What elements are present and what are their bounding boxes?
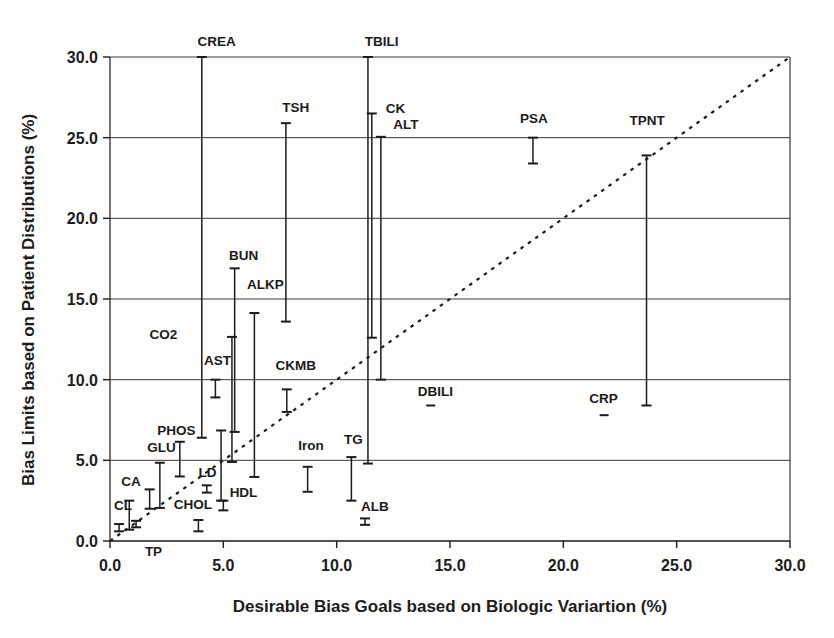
error-bar-CA <box>145 489 155 508</box>
error-bar-ALB <box>360 518 370 524</box>
analyte-label-TPNT: TPNT <box>630 113 666 128</box>
error-bar-LD <box>202 485 212 492</box>
error-bar-BUN <box>230 268 240 432</box>
y-tick-label: 15.0 <box>67 291 98 308</box>
bias-limits-chart: 0.05.010.015.020.025.030.00.05.010.015.0… <box>0 0 834 638</box>
error-bar-TPNT <box>642 155 652 405</box>
analyte-label-PSA: PSA <box>520 111 548 126</box>
analyte-label-AST: AST <box>204 353 232 368</box>
x-tick-label: 15.0 <box>434 557 465 574</box>
analyte-label-TG: TG <box>344 432 363 447</box>
y-axis-title: Bias Limits based on Patient Distributio… <box>19 114 38 486</box>
y-tick-label: 25.0 <box>67 130 98 147</box>
analyte-label-GLU: GLU <box>147 440 176 455</box>
analyte-label-CO2: CO2 <box>150 327 178 342</box>
analyte-label-CA: CA <box>121 474 141 489</box>
y-tick-label: 0.0 <box>76 533 98 550</box>
error-bar-TG <box>346 457 356 501</box>
analyte-label-ALT: ALT <box>393 117 419 132</box>
analyte-label-TP: TP <box>145 544 162 559</box>
analyte-label-HDL: HDL <box>230 485 258 500</box>
error-bar-PHOS <box>175 442 185 477</box>
tick-layer: 0.05.010.015.020.025.030.00.05.010.015.0… <box>67 49 806 574</box>
x-tick-label: 10.0 <box>321 557 352 574</box>
error-bar-CHOL <box>193 520 203 531</box>
error-bar-PSA <box>528 138 538 164</box>
x-tick-label: 30.0 <box>774 557 805 574</box>
analyte-label-BUN: BUN <box>229 248 258 263</box>
analyte-label-layer: CREATBILITSHCKALTPSATPNTBUNALKPASTCO2CKM… <box>114 34 666 560</box>
analyte-label-CK: CK <box>386 101 406 116</box>
y-tick-label: 20.0 <box>67 210 98 227</box>
error-bar-CKMB <box>282 389 292 412</box>
analyte-label-CRP: CRP <box>589 391 618 406</box>
analyte-label-DBILI: DBILI <box>418 384 453 399</box>
x-tick-label: 25.0 <box>661 557 692 574</box>
y-tick-label: 30.0 <box>67 49 98 66</box>
x-tick-label: 20.0 <box>548 557 579 574</box>
x-axis-title: Desirable Bias Goals based on Biologic V… <box>233 597 668 616</box>
error-bar-Iron <box>303 467 313 492</box>
figure-page: 0.05.010.015.020.025.030.00.05.010.015.0… <box>0 0 834 638</box>
analyte-label-LD: LD <box>198 465 216 480</box>
analyte-label-CKMB: CKMB <box>276 358 317 373</box>
error-bar-unlabeled <box>216 430 226 500</box>
y-tick-label: 10.0 <box>67 372 98 389</box>
y-tick-label: 5.0 <box>76 452 98 469</box>
error-bar-HDL <box>218 501 228 511</box>
analyte-label-ALB: ALB <box>361 499 389 514</box>
error-bar-ALKP <box>249 313 259 477</box>
analyte-label-CREA: CREA <box>197 34 236 49</box>
x-tick-label: 5.0 <box>212 557 234 574</box>
analyte-label-PHOS: PHOS <box>157 423 195 438</box>
analyte-label-TSH: TSH <box>282 100 309 115</box>
error-bar-CREA <box>197 57 207 438</box>
error-bar-unlabeled <box>114 524 124 531</box>
error-bar-GLU <box>155 463 165 508</box>
error-bar-CO2 <box>210 380 220 398</box>
error-bar-ALT <box>376 137 386 380</box>
x-tick-label: 0.0 <box>99 557 121 574</box>
analyte-label-CHOL: CHOL <box>174 497 212 512</box>
analyte-label-CL: CL <box>114 498 132 513</box>
analyte-label-ALKP: ALKP <box>247 277 284 292</box>
analyte-label-Iron: Iron <box>298 438 324 453</box>
analyte-label-TBILI: TBILI <box>365 34 399 49</box>
